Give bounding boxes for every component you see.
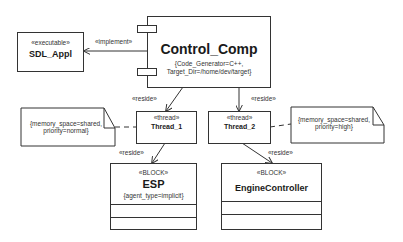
implement-label: «implement» [95,38,132,45]
note-2-text: {memory_space=shared, priority=high} [291,116,377,130]
node-sdl-appl[interactable]: «executable» SDL_Appl [17,32,84,72]
node-engine-controller[interactable]: «BLOCK» EngineController [221,163,322,230]
control-comp-tag-2: Target_Dir=/home/dev/target} [148,68,270,75]
sdl-appl-name: SDL_Appl [18,49,83,59]
note-1-text: {memory_space=shared, priority=normal} [21,120,111,134]
engine-controller-stereotype: «BLOCK» [222,169,321,176]
esp-name: ESP [111,178,196,190]
sdl-appl-stereotype: «executable» [18,39,83,46]
engine-controller-name: EngineController [222,183,321,193]
note-2-line-2: priority=high} [291,123,377,130]
esp-stereotype: «BLOCK» [111,169,196,176]
node-control-comp[interactable]: Control_Comp {Code_Generator=C++, Target… [147,16,271,88]
reside-label-thread-1: «reside» [132,95,157,102]
esp-tag: {agent_type=implicit} [111,192,196,201]
reside-label-engine: «reside» [268,149,293,156]
component-port-icon-top [137,25,157,33]
thread-2-name: Thread_2 [209,123,270,130]
control-comp-tag-1: {Code_Generator=C++, [148,60,270,67]
esp-attributes-compartment [111,204,196,217]
note-2-anchor [270,124,291,127]
reside-label-thread-2: «reside» [251,95,276,102]
component-port-icon-bottom [137,68,157,76]
esp-operations-compartment [111,217,196,230]
thread-1-stereotype: «thread» [137,114,196,121]
note-1-line-2: priority=normal} [21,127,111,134]
thread-2-stereotype: «thread» [209,114,270,121]
engine-controller-attributes-compartment [222,201,321,214]
node-thread-2[interactable]: «thread» Thread_2 [208,111,271,144]
node-esp[interactable]: «BLOCK» ESP {agent_type=implicit} [110,163,197,230]
note-2-line-1: {memory_space=shared, [291,116,377,123]
reside-label-esp: «reside» [119,149,144,156]
reside-connector-thread-1 [166,87,183,111]
note-1-line-1: {memory_space=shared, [21,120,111,127]
engine-controller-operations-compartment [222,214,321,227]
control-comp-name: Control_Comp [148,41,270,57]
thread-1-name: Thread_1 [137,123,196,130]
node-thread-1[interactable]: «thread» Thread_1 [136,111,197,144]
reside-connector-esp [152,143,165,163]
